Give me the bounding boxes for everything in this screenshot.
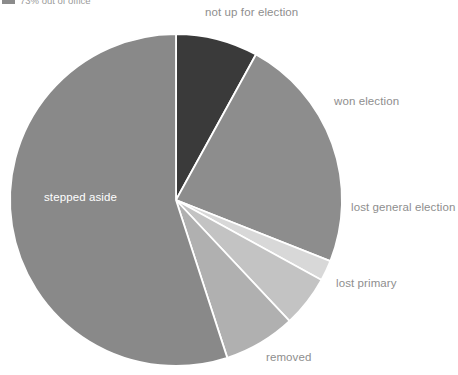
slice-label-won-election: won election bbox=[334, 95, 399, 108]
slice-label-lost-primary: lost primary bbox=[336, 277, 397, 290]
slice-label-removed: removed bbox=[266, 351, 311, 364]
pie-chart bbox=[0, 0, 458, 375]
slice-label-stepped-aside: stepped aside bbox=[44, 191, 117, 204]
slice-label-lost-general-election: lost general election bbox=[351, 201, 455, 214]
chart-canvas: 73% out of office not up for election wo… bbox=[0, 0, 458, 375]
slice-label-not-up-for-election: not up for election bbox=[205, 6, 298, 19]
